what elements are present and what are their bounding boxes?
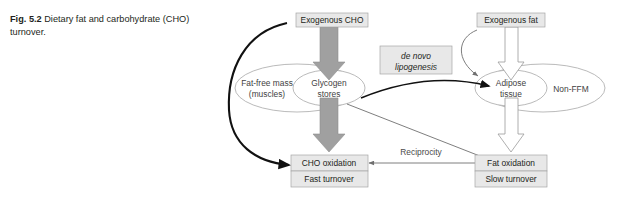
node-exogenous-cho: Exogenous CHO: [296, 13, 368, 27]
node-de-novo-line1: de novo: [401, 51, 431, 61]
figure-caption: Fig. 5.2 Dietary fat and carbohydrate (C…: [10, 13, 210, 40]
node-fat-oxidation-label: Fat oxidation: [487, 158, 535, 168]
label-fat-free-mass-line1: Fat-free mass: [241, 78, 293, 88]
figure-diagram: Exogenous CHO Exogenous fat de novo lipo…: [225, 0, 631, 197]
node-exogenous-cho-label: Exogenous CHO: [301, 15, 364, 25]
node-fat-oxidation: Fat oxidation Slow turnover: [475, 155, 547, 187]
label-glycogen-line2: stores: [318, 89, 341, 99]
node-cho-oxidation: CHO oxidation Fast turnover: [291, 155, 368, 187]
label-fat-free-mass-line2: (muscles): [249, 89, 286, 99]
label-reciprocity: Reciprocity: [400, 147, 442, 157]
node-de-novo-lipogenesis: de novo lipogenesis: [380, 46, 452, 74]
curve-exogenous-fat-to-adipose: [461, 30, 478, 76]
block-arrow-glycogen-to-cho-oxidation: [313, 98, 345, 152]
label-adipose-line1: Adipose: [496, 78, 527, 88]
node-exogenous-fat: Exogenous fat: [477, 13, 545, 27]
label-non-ffm: Non-FFM: [553, 84, 588, 94]
label-adipose-line2: tissue: [500, 89, 522, 99]
node-de-novo-line2: lipogenesis: [395, 62, 438, 72]
label-glycogen-line1: Glycogen: [311, 78, 347, 88]
curve-de-novo-lipogenesis: [361, 81, 489, 98]
node-exogenous-fat-label: Exogenous fat: [484, 15, 538, 25]
node-fast-turnover-label: Fast turnover: [304, 174, 354, 184]
figure-caption-label: Fig. 5.2: [10, 14, 42, 24]
node-slow-turnover-label: Slow turnover: [485, 174, 536, 184]
ellipse-group-ffm: [235, 64, 365, 112]
node-cho-oxidation-label: CHO oxidation: [302, 158, 357, 168]
